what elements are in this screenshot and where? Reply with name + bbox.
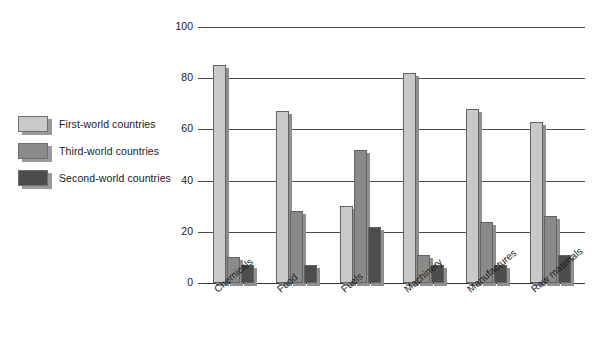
bar-group xyxy=(276,27,317,283)
bar-face xyxy=(354,150,367,283)
x-axis-category-labels: ChemicalsFoodFuelsMachineryManufacturesR… xyxy=(205,286,600,356)
bar xyxy=(466,109,479,283)
bar-group xyxy=(340,27,381,283)
bar-face xyxy=(276,111,289,283)
bar xyxy=(213,65,226,283)
plot-area: 020406080100 xyxy=(205,27,585,283)
legend-label: First-world countries xyxy=(59,118,156,130)
bar-group xyxy=(403,27,444,283)
bar-face xyxy=(340,206,353,283)
bar xyxy=(340,206,353,283)
bar-series-container xyxy=(205,27,585,283)
legend-label: Third-world countries xyxy=(59,145,159,157)
bar-chart: First-world countriesThird-world countri… xyxy=(0,0,602,357)
y-axis-tick-label: 40 xyxy=(159,174,193,186)
bar-face xyxy=(530,122,543,283)
bar xyxy=(304,265,317,283)
legend-swatch xyxy=(18,143,52,162)
legend-swatch-face xyxy=(18,116,48,132)
bar-group xyxy=(530,27,571,283)
y-axis-tick xyxy=(198,27,205,28)
bar xyxy=(276,111,289,283)
bar xyxy=(530,122,543,283)
bar-group xyxy=(213,27,254,283)
y-axis-tick-label: 20 xyxy=(159,225,193,237)
legend-label: Second-world countries xyxy=(59,172,171,184)
y-axis-tick xyxy=(198,78,205,79)
y-axis-tick xyxy=(198,129,205,130)
x-axis-baseline xyxy=(205,283,585,284)
y-axis-tick xyxy=(198,232,205,233)
legend-swatch xyxy=(18,116,52,135)
bar-face xyxy=(466,109,479,283)
legend-swatch-face xyxy=(18,170,48,186)
legend-swatch xyxy=(18,170,52,189)
bar xyxy=(354,150,367,283)
y-axis-tick xyxy=(198,283,205,284)
y-axis-tick-label: 60 xyxy=(159,122,193,134)
bar xyxy=(368,227,381,283)
y-axis-tick-label: 0 xyxy=(159,276,193,288)
bar-face xyxy=(304,265,317,283)
y-axis-tick-label: 80 xyxy=(159,71,193,83)
bar-face xyxy=(213,65,226,283)
bar-group xyxy=(466,27,507,283)
bar xyxy=(403,73,416,283)
bar-face xyxy=(368,227,381,283)
y-axis-tick xyxy=(198,181,205,182)
y-axis-tick-label: 100 xyxy=(159,20,193,32)
legend-swatch-face xyxy=(18,143,48,159)
bar-face xyxy=(403,73,416,283)
